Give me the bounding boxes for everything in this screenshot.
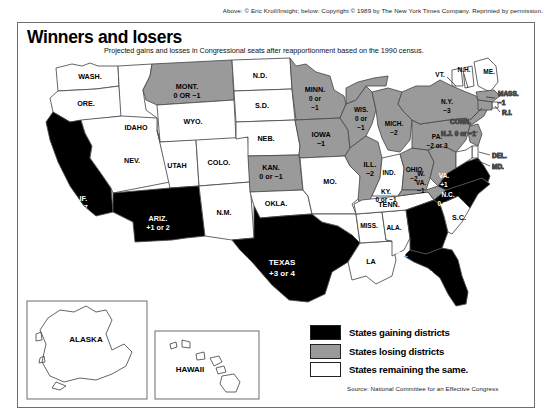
label-missouri: MO. bbox=[323, 177, 337, 186]
value-florida-2: or bbox=[425, 288, 432, 295]
label-georgia: GA. bbox=[396, 251, 408, 258]
label-indiana: IND. bbox=[383, 169, 396, 176]
value-west-virginia: −1 bbox=[417, 187, 425, 194]
label-west-virginia-1: W. bbox=[417, 170, 425, 177]
label-south-dakota: S.D. bbox=[255, 101, 269, 110]
legend-swatch-gaining bbox=[310, 325, 341, 340]
value-arizona: +1 or 2 bbox=[146, 223, 169, 232]
legend-item-losing[interactable]: States losing districts bbox=[310, 344, 468, 359]
label-new-york: N.Y. bbox=[441, 98, 453, 105]
label-california: CALIF. bbox=[65, 194, 87, 203]
label-maine: ME. bbox=[483, 68, 495, 75]
hawaii-inset-box bbox=[155, 331, 259, 399]
label-nevada: NEV. bbox=[124, 156, 140, 165]
value-georgia-1: +1 bbox=[398, 260, 406, 267]
value-california: +6 or 7 bbox=[64, 203, 87, 212]
legend-label-gaining: States gaining districts bbox=[349, 327, 450, 338]
state-connecticut[interactable] bbox=[478, 100, 492, 110]
value-florida-3: 4 bbox=[426, 297, 430, 304]
label-iowa: IOWA bbox=[311, 130, 330, 139]
value-massachusetts: −1 bbox=[498, 99, 506, 106]
legend-item-gaining[interactable]: States gaining districts bbox=[310, 325, 468, 340]
label-texas: TEXAS bbox=[269, 258, 296, 267]
label-hawaii: HAWAII bbox=[176, 365, 204, 374]
label-alaska: ALASKA bbox=[69, 335, 103, 344]
label-michigan: MICH. bbox=[385, 120, 404, 127]
label-alabama: ALA. bbox=[386, 224, 401, 231]
label-massachusetts: MASS. bbox=[498, 90, 519, 97]
label-rhode-island: R.I. bbox=[502, 109, 512, 116]
label-oregon: ORE. bbox=[77, 99, 95, 108]
label-wyoming: WYO. bbox=[183, 117, 202, 126]
value-wisconsin-2: −1 bbox=[357, 124, 365, 131]
label-oklahoma: OKLA. bbox=[265, 199, 287, 208]
label-new-jersey: N.J. 0 or −1 bbox=[441, 130, 476, 137]
label-arkansas: ARK. bbox=[323, 226, 341, 235]
label-minnesota: MINN. bbox=[305, 85, 325, 94]
value-minnesota-2: −1 bbox=[311, 104, 319, 111]
label-utah: UTAH bbox=[167, 161, 186, 170]
label-idaho: IDAHO bbox=[124, 123, 148, 132]
value-michigan: −2 bbox=[390, 129, 398, 136]
value-texas: +3 or 4 bbox=[269, 269, 296, 278]
value-wisconsin-1: 0 or bbox=[355, 115, 367, 122]
value-minnesota-1: 0 or bbox=[309, 95, 321, 102]
value-pennsylvania: −2 or 3 bbox=[426, 142, 448, 149]
label-arizona: ARIZ. bbox=[149, 214, 168, 223]
leader-line-delaware bbox=[479, 152, 490, 155]
label-wisconsin: WIS. bbox=[354, 106, 368, 113]
label-maryland: MD. bbox=[492, 163, 504, 170]
value-north-carolina: 0 or +1 bbox=[437, 200, 459, 207]
legend-swatch-losing bbox=[310, 344, 341, 359]
label-north-carolina: N.C. bbox=[442, 191, 455, 198]
legend-label-losing: States losing districts bbox=[349, 346, 444, 357]
label-new-hampshire: N.H. bbox=[458, 66, 471, 73]
value-illinois: −2 bbox=[366, 169, 374, 178]
label-north-dakota: N.D. bbox=[253, 71, 267, 80]
label-south-carolina: S.C. bbox=[452, 213, 466, 222]
label-west-virginia-2: VA. bbox=[416, 179, 427, 186]
value-new-york: −3 bbox=[443, 107, 451, 114]
label-delaware: DEL. bbox=[492, 152, 507, 159]
legend-item-same[interactable]: States remaining the same. bbox=[310, 362, 468, 377]
label-florida: FLA. bbox=[421, 270, 436, 277]
label-mississippi: MISS. bbox=[360, 222, 378, 229]
value-iowa: −1 bbox=[317, 139, 325, 148]
label-new-mexico: N.M. bbox=[216, 208, 231, 217]
source-note: Source: National Committee for an Effect… bbox=[347, 385, 498, 392]
label-illinois: ILL. bbox=[364, 160, 377, 169]
state-maine[interactable] bbox=[474, 58, 498, 92]
value-florida-1: +3 bbox=[424, 279, 432, 286]
value-kentucky: 0 or −1 bbox=[375, 196, 397, 203]
state-florida[interactable] bbox=[404, 248, 468, 306]
label-montana: MONT. bbox=[176, 82, 198, 91]
label-colorado: COLO. bbox=[208, 158, 231, 167]
value-virginia: +1 bbox=[440, 181, 448, 188]
label-nebraska: NEB. bbox=[257, 134, 274, 143]
label-vermont: VT. bbox=[435, 71, 445, 78]
legend-label-same: States remaining the same. bbox=[349, 364, 468, 375]
label-kansas: KAN. bbox=[262, 163, 280, 172]
map-legend: States gaining districts States losing d… bbox=[310, 325, 468, 381]
value-montana: 0 OR −1 bbox=[174, 91, 201, 100]
value-kansas: 0 or −1 bbox=[259, 172, 282, 181]
label-washington: WASH. bbox=[78, 72, 102, 81]
label-connecticut: CONN. bbox=[450, 118, 471, 125]
legend-swatch-same bbox=[310, 362, 341, 377]
label-kentucky: KY. bbox=[381, 188, 391, 195]
value-georgia-2: or 2 bbox=[396, 269, 408, 276]
label-louisiana: LA bbox=[366, 257, 376, 266]
label-virginia: VA. bbox=[439, 172, 450, 179]
state-delaware[interactable] bbox=[472, 146, 478, 158]
